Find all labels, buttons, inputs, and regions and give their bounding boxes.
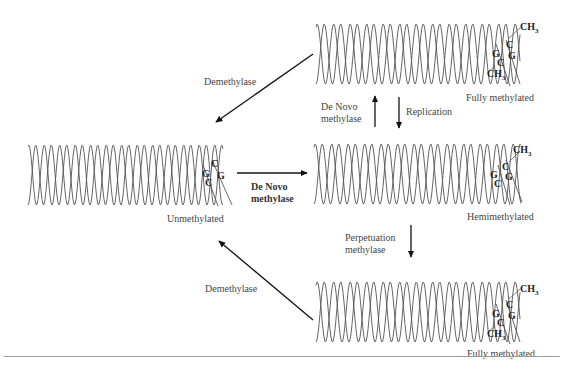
label-hemimethylated: Hemimethylated [467,211,534,223]
base-c: C [497,318,504,328]
base-g: G [508,311,516,321]
label-de-novo-methylase-horizontal: De Novo methylase [251,181,294,205]
arrow-bottom-to-left [219,241,313,320]
base-g: G [505,172,513,182]
base-c: C [205,178,212,188]
label-de-novo: De Novo [321,101,362,113]
label-unmethylated: Unmethylated [167,213,224,225]
base-g: G [217,171,225,181]
base-c: C [506,300,513,310]
label-methylase: methylase [251,193,294,205]
base-g: G [508,51,516,61]
label-replication: Replication [406,106,452,118]
label-demethylase-bottom: Demethylase [205,283,257,295]
base-c: C [497,58,504,68]
dna-helix-hemimethylated [314,142,536,206]
label-methylase: methylase [321,113,362,125]
base-ch3: CH3 [520,284,539,298]
base-c: C [494,179,501,189]
label-fully-methylated-top: Fully methylated [466,92,534,104]
base-ch3: CH3 [520,22,539,36]
label-perpetuation-methylase: Perpetuation methylase [345,232,396,256]
divider-line [4,356,560,357]
base-ch3: CH3 [487,329,506,343]
arrow-top-to-left [216,54,313,122]
base-ch3: CH3 [487,69,506,83]
base-c: C [211,159,218,169]
label-perpetuation: Perpetuation [345,232,396,244]
label-fully-methylated-bottom: Fully methylated [467,348,535,360]
label-methylase: methylase [345,244,396,256]
base-ch3: CH3 [513,145,532,159]
label-de-novo: De Novo [251,181,294,193]
base-c: C [506,40,513,50]
label-demethylase-top: Demethylase [204,76,256,88]
label-de-novo-methylase-vertical: De Novo methylase [321,101,362,125]
